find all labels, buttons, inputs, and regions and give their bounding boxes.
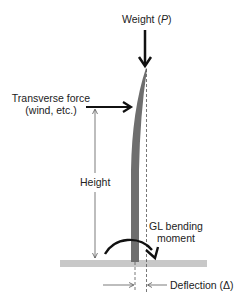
transverse-force-label-line1: Transverse force [11, 92, 91, 104]
diagram-canvas [0, 0, 245, 308]
weight-label-text: Weight ( [122, 13, 161, 25]
bending-moment-label-line1: GL bending [148, 220, 204, 232]
weight-symbol: P [161, 13, 168, 25]
transverse-force-arrow [86, 102, 131, 112]
pole [131, 68, 147, 262]
transverse-force-label-line2: (wind, etc.) [11, 104, 91, 116]
transverse-force-label: Transverse force (wind, etc.) [11, 92, 91, 116]
bending-moment-label-line2: moment [148, 232, 204, 244]
height-label: Height [80, 176, 110, 188]
weight-arrow [139, 30, 151, 66]
weight-label: Weight (P) [122, 13, 171, 25]
weight-label-close: ) [168, 13, 172, 25]
deflection-label: Deflection (Δ) [170, 279, 234, 291]
bending-moment-label: GL bending moment [148, 220, 204, 244]
